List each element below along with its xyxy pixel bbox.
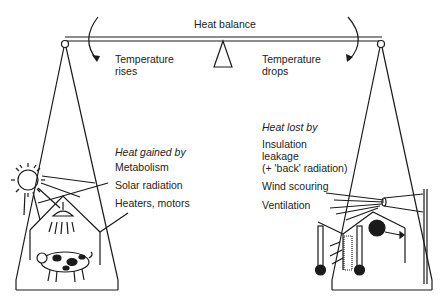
lost-item: Ventilation — [262, 199, 310, 211]
lost-item: leakage — [262, 150, 299, 162]
drop-arrow-icon — [348, 17, 358, 60]
balance-beam — [65, 37, 382, 41]
fulcrum-icon — [214, 41, 232, 67]
lost-item: Insulation — [262, 138, 307, 150]
pig-icon — [37, 252, 92, 282]
lost-item: (+ 'back' radiation) — [262, 162, 347, 174]
drop-label-line2: drops — [262, 65, 288, 77]
sun-icon — [11, 163, 95, 220]
title: Heat balance — [194, 18, 256, 30]
rise-label-line2: rises — [115, 65, 137, 77]
gained-item: Heaters, motors — [115, 197, 190, 209]
drop-label-line1: Temperature — [262, 53, 321, 65]
rise-arrow-icon — [89, 17, 98, 60]
lost-heading: Heat lost by — [262, 121, 317, 133]
rise-label-line1: Temperature — [115, 53, 174, 65]
heat-balance-diagram — [0, 0, 446, 308]
gained-item: Solar radiation — [115, 179, 183, 191]
gained-heading: Heat gained by — [115, 146, 186, 158]
left-pivot — [62, 41, 69, 48]
fan-icon — [369, 220, 404, 238]
gained-item: Metabolism — [115, 161, 169, 173]
lost-item: Wind scouring — [262, 180, 329, 192]
right-pivot — [378, 41, 385, 48]
